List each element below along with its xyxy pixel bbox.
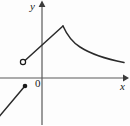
decaying-curve xyxy=(63,26,124,63)
origin-label: 0 xyxy=(35,78,41,89)
open-endpoint-marker xyxy=(20,59,25,64)
y-axis xyxy=(39,1,46,126)
y-axis-arrow-icon xyxy=(39,1,46,8)
y-axis-label: y xyxy=(30,1,35,12)
function-graph-figure: y x 0 xyxy=(0,0,130,125)
lower-left-ray-line xyxy=(0,87,25,119)
graph-canvas xyxy=(0,0,130,125)
x-axis xyxy=(0,75,129,82)
lower-left-ray xyxy=(0,84,27,118)
rising-segment-line xyxy=(25,26,63,61)
closed-endpoint-marker xyxy=(23,84,28,89)
x-axis-label: x xyxy=(120,81,125,92)
